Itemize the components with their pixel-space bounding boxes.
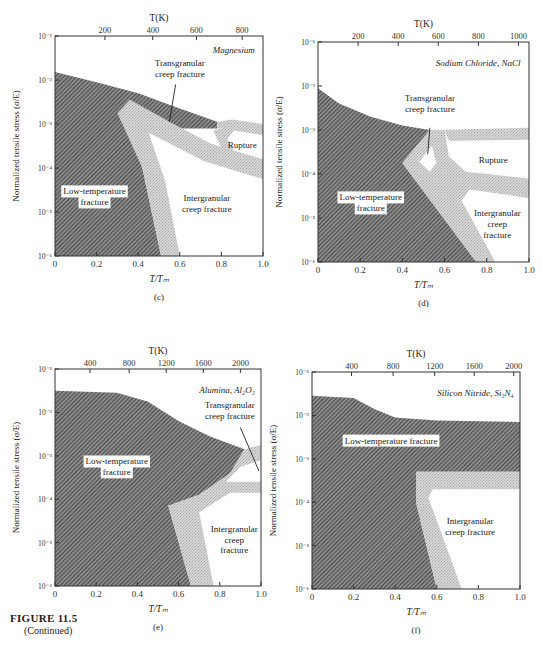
- y-axis-title: Normalized tensile stress (σ/E): [274, 96, 284, 208]
- y-tick-label: 10⁻⁵: [38, 208, 53, 217]
- region-label: fracture: [81, 197, 109, 207]
- top-tick-label: 2000: [232, 358, 249, 368]
- region-label: creep: [224, 535, 244, 545]
- x2-axis-title: T(K): [149, 346, 168, 357]
- y-tick-label: 10⁻⁴: [301, 170, 316, 179]
- top-tick-label: 1600: [195, 358, 212, 368]
- chart-panel-magnesium: MagnesiumTransgranularcreep fractureRupt…: [11, 13, 269, 302]
- top-tick-label: 800: [236, 25, 249, 35]
- figure-caption: FIGURE 11.5 (Continued): [10, 612, 77, 636]
- region-label: Transgranular: [155, 58, 205, 68]
- top-tick-label: 600: [190, 25, 203, 35]
- x-tick-label: 0.2: [91, 589, 102, 599]
- chart-panel-silicon-nitride: Silicon Nitride, Si₃N₄Low-temperature fr…: [268, 349, 526, 635]
- material-label: Sodium Chloride, NaCl: [436, 58, 521, 68]
- top-tick-label: 600: [432, 31, 445, 41]
- y-axis-title: Normalized tensile stress (σ/E): [11, 422, 21, 534]
- top-tick-label: 800: [472, 31, 485, 41]
- top-tick-label: 200: [352, 31, 365, 41]
- top-tick-label: 400: [146, 25, 159, 35]
- region-label: Intergranular: [474, 208, 521, 218]
- y-tick-label: 10⁻¹: [38, 32, 52, 41]
- y-tick-label: 10⁻⁶: [301, 258, 316, 267]
- top-tick-label: 800: [123, 358, 136, 368]
- y-tick-label: 10⁻¹: [38, 365, 52, 374]
- top-tick-label: 1200: [426, 361, 443, 371]
- x-tick-label: 0.2: [348, 592, 359, 602]
- y-axis-title: Normalized tensile stress (σ/E): [268, 425, 278, 537]
- x2-axis-title: T(K): [150, 13, 169, 24]
- region-label: creep fracture: [155, 69, 205, 79]
- region-label: Intergranular: [211, 524, 258, 534]
- chart-panel-alumina: Alumina, Al₂O₃Transgranularcreep fractur…: [11, 346, 267, 632]
- material-label: Magnesium: [212, 45, 255, 55]
- x-tick-label: 0.8: [214, 589, 226, 599]
- region-label: creep fracture: [205, 411, 255, 421]
- x-tick-label: 0.6: [439, 265, 451, 275]
- y-tick-label: 10⁻³: [38, 452, 53, 461]
- x-tick-label: 1.0: [257, 259, 269, 269]
- y-tick-label: 10⁻¹: [301, 38, 315, 47]
- y-tick-label: 10⁻⁵: [38, 539, 53, 548]
- y-tick-label: 10⁻⁶: [38, 252, 53, 261]
- y-tick-label: 10⁻²: [295, 411, 310, 420]
- region-label: Low-temperature: [63, 186, 125, 196]
- region-label: Rupture: [228, 140, 257, 150]
- region-label: creep fracture: [445, 527, 495, 537]
- region-label: creep fracture: [182, 204, 232, 214]
- y-tick-label: 10⁻⁴: [295, 498, 310, 507]
- top-tick-label: 400: [84, 358, 97, 368]
- material-label: Silicon Nitride, Si₃N₄: [437, 388, 514, 398]
- x-tick-label: 0.6: [431, 592, 443, 602]
- region-label: fracture: [220, 545, 248, 555]
- x-tick-label: 0.8: [481, 265, 493, 275]
- region-label: fracture: [483, 230, 511, 240]
- x-tick-label: 0.6: [173, 589, 185, 599]
- x-tick-label: 0.4: [132, 589, 144, 599]
- region-label: Intergranular: [447, 516, 494, 526]
- x-tick-label: 0.4: [133, 259, 145, 269]
- chart-panel-sodium-chloride: Sodium Chloride, NaClTransgranularcreep …: [274, 19, 535, 308]
- region-label: Rupture: [479, 155, 508, 165]
- x-tick-label: 0: [53, 259, 58, 269]
- y-tick-label: 10⁻³: [295, 455, 310, 464]
- region-label: Intergranular: [183, 193, 230, 203]
- x-tick-label: 0.8: [473, 592, 485, 602]
- x-tick-label: 1.0: [255, 589, 267, 599]
- x-tick-label: 0.4: [390, 592, 402, 602]
- region-label: fracture: [357, 203, 385, 213]
- region-label: Low-temperature: [340, 192, 402, 202]
- y-tick-label: 10⁻¹: [295, 368, 309, 377]
- x-tick-label: 1.0: [523, 265, 535, 275]
- x-tick-label: 1.0: [514, 592, 526, 602]
- y-tick-label: 10⁻⁵: [301, 214, 316, 223]
- x2-axis-title: T(K): [407, 349, 426, 360]
- x-tick-label: 0.2: [91, 259, 102, 269]
- region-label: Low-temperature: [86, 456, 148, 466]
- region-label: creep fracture: [405, 104, 455, 114]
- top-tick-label: 200: [99, 25, 112, 35]
- x-tick-label: 0: [310, 592, 315, 602]
- x2-axis-title: T(K): [414, 19, 433, 30]
- region-label: Transgranular: [405, 93, 455, 103]
- y-tick-label: 10⁻⁴: [38, 164, 53, 173]
- figure-subtitle: (Continued): [24, 625, 77, 636]
- y-tick-label: 10⁻³: [38, 120, 53, 129]
- material-label: Alumina, Al₂O₃: [198, 385, 255, 395]
- top-tick-label: 1200: [158, 358, 175, 368]
- top-tick-label: 2000: [505, 361, 522, 371]
- x-tick-label: 0.2: [355, 265, 366, 275]
- figure-title: FIGURE 11.5: [10, 612, 77, 624]
- plot-area: [312, 372, 520, 589]
- region-label: fracture: [103, 467, 131, 477]
- region-label: creep: [488, 219, 508, 229]
- top-tick-label: 800: [387, 361, 400, 371]
- panel-label: (e): [153, 622, 163, 632]
- x-axis-title: T/Tₘ: [414, 280, 433, 290]
- y-axis-title: Normalized tensile stress (σ/E): [11, 90, 21, 202]
- y-tick-label: 10⁻²: [38, 408, 53, 417]
- y-tick-label: 10⁻²: [38, 76, 53, 85]
- x-tick-label: 0.4: [397, 265, 409, 275]
- x-tick-label: 0.6: [174, 259, 186, 269]
- panel-label: (c): [154, 292, 164, 302]
